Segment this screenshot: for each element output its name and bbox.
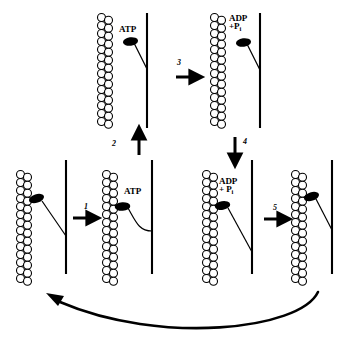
actin-filament [203, 171, 218, 286]
step-label-2: 2 [112, 140, 116, 148]
step-label-4: 4 [243, 138, 247, 146]
myosin-tail [128, 208, 152, 231]
diagram-canvas [0, 0, 346, 351]
nucleotide-label-top-left: ATP [119, 25, 136, 34]
panel-bottom-2 [103, 160, 153, 285]
step-label-3: 3 [177, 59, 181, 67]
actin-filament [98, 14, 113, 129]
cycle-return-arrow [46, 292, 318, 328]
myosin-head [122, 36, 138, 46]
myosin-tail [316, 199, 332, 230]
step-label-1: 1 [84, 203, 88, 211]
actin-filament [211, 14, 226, 129]
nucleotide-label-bottom-2: ATP [124, 187, 141, 196]
nucleotide-label-top-right: ADP +Pi [229, 14, 247, 32]
pi-line: + Pi [219, 185, 237, 195]
pi-subscript: i [239, 25, 241, 32]
myosin-tail [135, 44, 147, 68]
pi-subscript: i [232, 188, 234, 195]
actin-filament [292, 171, 307, 286]
step-label-5: 5 [273, 204, 277, 212]
panel-bottom-4 [292, 160, 333, 285]
myosin-tail [228, 208, 252, 252]
panel-bottom-1 [17, 160, 67, 285]
myosin-tail [248, 45, 260, 69]
actin-filament [17, 171, 32, 286]
cross-bridge-cycle-diagram: ATP ADP +Pi ATP ADP + Pi 1 2 3 4 5 [0, 0, 346, 351]
pi-line: +Pi [229, 22, 247, 32]
myosin-tail [42, 201, 66, 236]
actin-filament [103, 171, 118, 286]
myosin-head [235, 37, 251, 47]
nucleotide-label-bottom-3: ADP + Pi [219, 177, 237, 195]
